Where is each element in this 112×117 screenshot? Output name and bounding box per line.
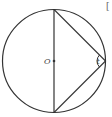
center-label: O <box>44 57 51 66</box>
geometry-diagram: O t [ <box>0 0 112 117</box>
angle-label: t <box>97 57 101 66</box>
center-point <box>53 60 56 63</box>
corner-bracket: [ <box>106 1 110 11</box>
chord-top <box>54 10 106 62</box>
chord-bottom <box>54 61 106 113</box>
